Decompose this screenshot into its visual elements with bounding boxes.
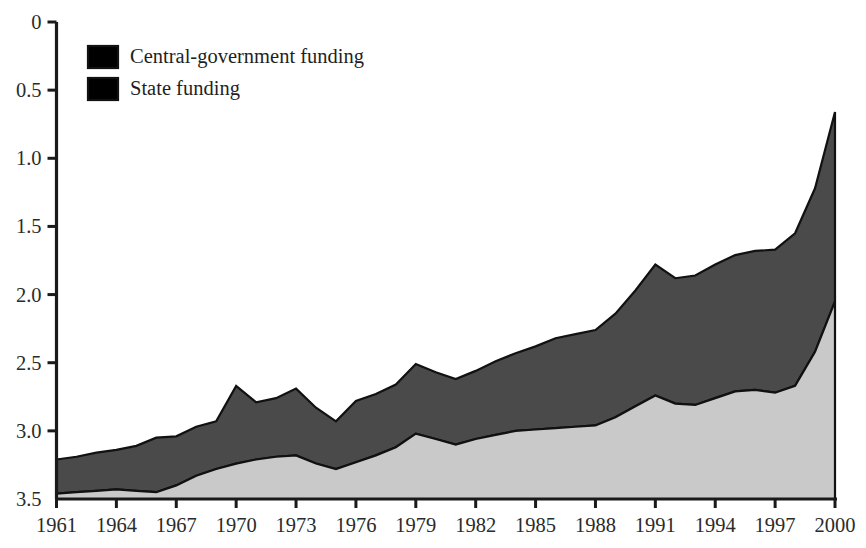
x-tick-label: 1997 xyxy=(755,514,796,536)
x-tick-label: 1973 xyxy=(276,514,317,536)
x-tick-label: 1967 xyxy=(156,514,197,536)
y-tick-label: 3.0 xyxy=(16,420,42,442)
x-tick-label: 1964 xyxy=(96,514,137,536)
x-tick-label: 1970 xyxy=(216,514,257,536)
y-tick-label: 1.0 xyxy=(16,147,42,169)
x-tick-label: 2000 xyxy=(815,514,856,536)
legend-label-state-funding: State funding xyxy=(130,77,240,100)
x-tick-label: 1994 xyxy=(695,514,736,536)
x-tick-label: 1976 xyxy=(335,514,376,536)
x-tick-label: 1979 xyxy=(395,514,436,536)
stacked-area-chart: 3.53.02.52.01.51.00.50 19611964196719701… xyxy=(0,0,866,548)
legend-label-central-government-funding: Central-government funding xyxy=(130,45,364,68)
x-tick-label: 1985 xyxy=(515,514,556,536)
y-tick-label: 1.5 xyxy=(16,215,42,237)
legend-swatch-central-government-funding xyxy=(88,46,118,68)
y-tick-label: 0.5 xyxy=(16,79,42,101)
legend-swatch-state-funding xyxy=(88,78,118,100)
y-tick-label: 3.5 xyxy=(16,488,42,510)
y-tick-label: 0 xyxy=(31,11,41,33)
chart-canvas: 3.53.02.52.01.51.00.50 19611964196719701… xyxy=(0,0,866,548)
x-tick-label: 1988 xyxy=(575,514,616,536)
x-tick-label: 1991 xyxy=(635,514,676,536)
y-tick-label: 2.5 xyxy=(16,352,42,374)
x-tick-label: 1982 xyxy=(455,514,496,536)
x-tick-label: 1961 xyxy=(36,514,77,536)
y-tick-label: 2.0 xyxy=(16,284,42,306)
